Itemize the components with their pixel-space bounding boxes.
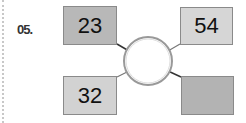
box-value: 32 (78, 83, 102, 109)
box-top-left: 23 (63, 6, 117, 45)
center-answer-circle[interactable] (124, 37, 172, 85)
box-value: 23 (78, 13, 102, 39)
box-bottom-right-answer[interactable] (181, 76, 234, 115)
box-value: 54 (194, 13, 218, 39)
box-bottom-left: 32 (63, 76, 117, 115)
box-top-right: 54 (180, 7, 233, 45)
